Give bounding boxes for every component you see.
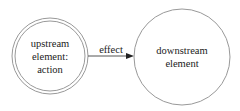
- upstream-label-line1: upstream: [31, 38, 70, 49]
- arrowhead-icon: [126, 53, 134, 59]
- edge-label: effect: [99, 44, 123, 55]
- upstream-label-line3: action: [37, 64, 63, 75]
- node-upstream: upstream element: action: [12, 18, 88, 94]
- circle: [134, 9, 230, 105]
- downstream-label-line2: element: [165, 58, 198, 69]
- diagram-canvas: upstream element: action effect downstre…: [0, 0, 240, 111]
- node-downstream: downstream element: [134, 9, 230, 105]
- edge-effect: effect: [88, 44, 134, 59]
- downstream-label-line1: downstream: [156, 45, 207, 56]
- upstream-label-line2: element:: [32, 51, 68, 62]
